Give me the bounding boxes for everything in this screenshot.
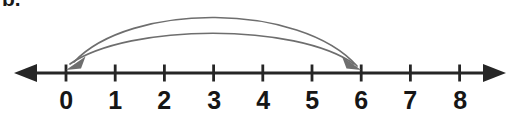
tick-label-1: 1 bbox=[100, 88, 130, 113]
jump-arc-outer-path bbox=[74, 17, 357, 66]
tick-label-7: 7 bbox=[395, 88, 425, 113]
tick-label-4: 4 bbox=[248, 88, 278, 113]
jump-arc-inner-path bbox=[70, 33, 354, 64]
tick-label-2: 2 bbox=[149, 88, 179, 113]
tick-label-0: 0 bbox=[51, 88, 81, 113]
tick-label-8: 8 bbox=[445, 88, 475, 113]
jump-arc-outer bbox=[66, 17, 357, 70]
jump-arc-outer-arrowhead-icon bbox=[66, 57, 86, 71]
tick-label-6: 6 bbox=[346, 88, 376, 113]
tick-label-3: 3 bbox=[199, 88, 229, 113]
tick-label-5: 5 bbox=[297, 88, 327, 113]
axis-right-arrow-icon bbox=[483, 64, 506, 82]
axis-left-arrow-icon bbox=[14, 64, 37, 82]
number-line-figure: b. 0 1 2 bbox=[0, 0, 520, 122]
